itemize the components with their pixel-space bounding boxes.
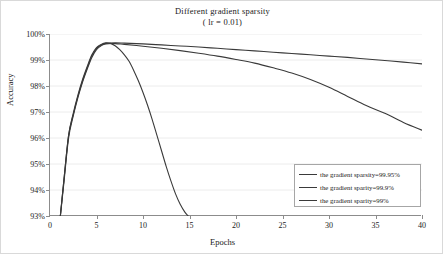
legend-item: the gradient sparity=99% bbox=[299, 194, 418, 207]
x-axis-tick-mark bbox=[329, 215, 330, 219]
x-axis-tick-mark bbox=[283, 215, 284, 219]
y-axis-tick-mark bbox=[46, 86, 50, 87]
y-axis-label: Accuracy bbox=[5, 73, 15, 106]
y-axis-tick-label: 94% bbox=[30, 186, 45, 195]
x-axis-tick-label: 10 bbox=[139, 221, 147, 230]
y-axis-tick-label: 95% bbox=[30, 160, 45, 169]
y-axis-tick-mark bbox=[46, 190, 50, 191]
x-axis-tick-label: 0 bbox=[48, 221, 52, 230]
x-axis-tick-mark bbox=[143, 215, 144, 219]
y-axis-tick-mark bbox=[46, 164, 50, 165]
x-axis-tick-label: 30 bbox=[325, 221, 333, 230]
x-axis-tick-label: 25 bbox=[279, 221, 287, 230]
legend-line-swatch bbox=[299, 174, 317, 175]
y-axis-tick-label: 97% bbox=[30, 108, 45, 117]
x-axis-tick-label: 15 bbox=[186, 221, 194, 230]
y-axis-tick-mark bbox=[46, 138, 50, 139]
y-axis-tick-mark bbox=[46, 34, 50, 35]
legend-line-swatch bbox=[299, 200, 317, 201]
chart-legend: the gradient sparsity=99.95% the gradien… bbox=[294, 164, 421, 207]
y-axis-tick-label: 98% bbox=[30, 82, 45, 91]
x-axis-tick-mark bbox=[190, 215, 191, 219]
y-axis-tick-label: 93% bbox=[30, 212, 45, 221]
legend-line-swatch bbox=[299, 187, 317, 188]
legend-item: the gradient sparsity=99.95% bbox=[299, 168, 418, 181]
y-axis-tick-label: 100% bbox=[26, 30, 45, 39]
y-axis-tick-mark bbox=[46, 216, 50, 217]
x-axis-tick-mark bbox=[376, 215, 377, 219]
x-axis-tick-mark bbox=[236, 215, 237, 219]
chart-title-block: Different gradient sparsity ( lr = 0.01) bbox=[1, 6, 443, 28]
x-axis-tick-label: 20 bbox=[232, 221, 240, 230]
legend-item-label: the gradient sparsity=99.95% bbox=[320, 171, 400, 178]
chart-title: Different gradient sparsity bbox=[1, 6, 443, 17]
x-axis-label: Epochs bbox=[1, 237, 443, 247]
y-axis-tick-mark bbox=[46, 60, 50, 61]
x-axis-tick-label: 40 bbox=[418, 221, 426, 230]
chart-subtitle: ( lr = 0.01) bbox=[1, 17, 443, 28]
x-axis-tick-label: 35 bbox=[372, 221, 380, 230]
y-axis-tick-label: 96% bbox=[30, 134, 45, 143]
legend-item-label: the gradient sparity=99% bbox=[320, 197, 389, 204]
legend-item: the gradient sparity=99.9% bbox=[299, 181, 418, 194]
x-axis-tick-mark bbox=[422, 215, 423, 219]
y-axis-tick-label: 99% bbox=[30, 56, 45, 65]
legend-item-label: the gradient sparity=99.9% bbox=[320, 184, 394, 191]
chart-figure: Different gradient sparsity ( lr = 0.01)… bbox=[0, 0, 443, 254]
x-axis-tick-mark bbox=[97, 215, 98, 219]
y-axis-tick-mark bbox=[46, 112, 50, 113]
x-axis-tick-label: 5 bbox=[95, 221, 99, 230]
